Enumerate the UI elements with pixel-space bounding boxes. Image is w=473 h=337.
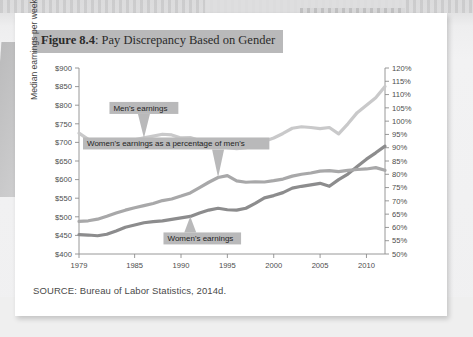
y-tick-label-left: $900: [55, 64, 72, 73]
y-tick-label-left: $400: [55, 250, 72, 259]
y-tick-label-left: $600: [55, 175, 72, 184]
series-line-women-s-earnings: [79, 146, 385, 236]
y-tick-label-left: $500: [55, 213, 72, 222]
y-tick-label-left: $700: [55, 138, 72, 147]
x-tick-label: 2005: [312, 261, 329, 270]
y-tick-label-right: 50%: [392, 250, 407, 259]
y-tick-label-right: 90%: [392, 143, 407, 152]
figure-number: Figure 8.4: [41, 33, 95, 47]
x-tick-label: 2010: [358, 261, 375, 270]
y-tick-label-right: 110%: [392, 90, 411, 99]
y-tick-label-left: $650: [55, 157, 72, 166]
x-tick-label: 1995: [219, 261, 236, 270]
y-axis-title: Median earnings per week: [29, 0, 39, 100]
y-tick-label-left: $850: [55, 82, 72, 91]
x-axis-ticks: 1979198519901995200020052010: [71, 254, 375, 270]
y-tick-label-right: 55%: [392, 236, 407, 245]
annotation-label: Women's earnings: [163, 216, 241, 244]
y-tick-label-right: 85%: [392, 157, 407, 166]
chart-plot-area: Median earnings per week $900$850$800$75…: [33, 58, 433, 283]
figure-title-text: Pay Discrepancy Based on Gender: [102, 33, 276, 47]
y-tick-label-right: 70%: [392, 197, 407, 206]
x-tick-label: 1979: [71, 261, 88, 270]
source-note: SOURCE: Bureau of Labor Statistics, 2014…: [33, 285, 226, 296]
y-tick-label-left: $550: [55, 194, 72, 203]
y-axis-left-ticks: $900$850$800$750$700$650$600$550$500$450…: [55, 64, 79, 259]
figure-title-separator: :: [95, 33, 102, 47]
annotation-label: Women's earnings as a percentage of men'…: [83, 137, 269, 177]
annotation-text: Men's earnings: [113, 104, 167, 113]
chart-annotations: Men's earningsWomen's earnings as a perc…: [83, 102, 269, 244]
figure-card: Figure 8.4: Pay Discrepancy Based on Gen…: [15, 13, 447, 316]
x-tick-label: 1985: [126, 261, 143, 270]
x-tick-label: 1990: [173, 261, 190, 270]
y-axis-right-ticks: 120%115%110%105%100%95%90%85%80%75%70%65…: [385, 64, 412, 259]
y-tick-label-right: 60%: [392, 223, 407, 232]
annotation-label: Men's earnings: [109, 102, 178, 138]
annotation-text: Women's earnings as a percentage of men'…: [87, 139, 245, 148]
y-tick-label-right: 95%: [392, 130, 407, 139]
y-tick-label-left: $750: [55, 120, 72, 129]
annotation-text: Women's earnings: [167, 234, 233, 243]
y-tick-label-right: 115%: [392, 77, 411, 86]
y-tick-label-left: $450: [55, 231, 72, 240]
line-chart: $900$850$800$750$700$650$600$550$500$450…: [33, 58, 433, 283]
y-tick-label-right: 80%: [392, 170, 407, 179]
y-tick-label-right: 105%: [392, 104, 412, 113]
y-tick-label-left: $800: [55, 101, 72, 110]
y-tick-label-right: 75%: [392, 183, 407, 192]
series-line-women-s-earnings-as-a-percentage-of-men-s: [79, 168, 385, 222]
y-tick-label-right: 65%: [392, 210, 407, 219]
y-tick-label-right: 120%: [392, 64, 412, 73]
y-tick-label-right: 100%: [392, 117, 412, 126]
x-tick-label: 2000: [265, 261, 282, 270]
figure-title: Figure 8.4: Pay Discrepancy Based on Gen…: [33, 30, 283, 53]
